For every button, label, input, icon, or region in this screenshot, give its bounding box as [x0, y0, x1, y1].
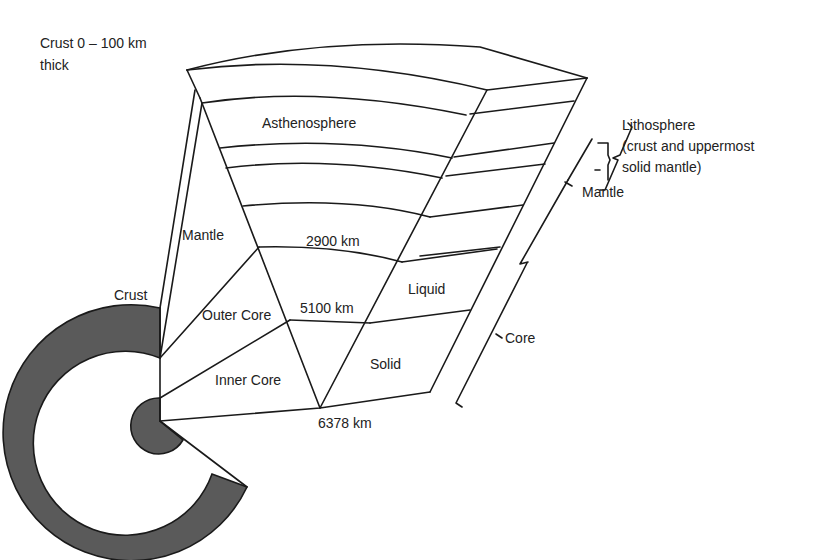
layer-line-2900 — [259, 247, 402, 262]
mantle-wedge-label: Mantle — [182, 227, 224, 243]
outer-ring-shaded — [3, 305, 247, 560]
layer-line-5100 — [290, 320, 370, 323]
right-layer-2900 — [402, 249, 497, 262]
inner-core-label: Inner Core — [215, 372, 281, 388]
bottom-edge — [160, 392, 430, 421]
depth-2900-label: 2900 km — [306, 233, 360, 249]
lithosphere-bracket — [600, 123, 632, 190]
layer-line-1 — [202, 96, 466, 115]
crust-thickness-note-line2: thick — [40, 57, 70, 73]
middle-diagonal-edge — [320, 90, 487, 408]
lithosphere-label-line2: (crust and uppermost — [622, 138, 754, 154]
depth-6378-label: 6378 km — [318, 415, 372, 431]
lithosphere-label-line3: solid mantle) — [622, 159, 701, 175]
lithosphere-label-line1: Lithosphere — [622, 117, 695, 133]
right-layer-3 — [446, 164, 545, 176]
crust-strip-outer — [160, 90, 195, 308]
earth-layers-diagram: Crust 0 – 100 km thick Asthenosphere Lit… — [0, 0, 817, 560]
cutaway-disc — [3, 305, 247, 560]
crust-thickness-note-line1: Crust 0 – 100 km — [40, 35, 147, 51]
depth-5100-label: 5100 km — [300, 300, 354, 316]
lithosphere-inner-bracket — [598, 143, 610, 180]
cutaway-edge-line — [160, 421, 247, 487]
mantle-bracket-label: Mantle — [582, 184, 624, 200]
layer-line-4 — [243, 203, 430, 217]
crust-left-edge — [187, 70, 200, 98]
right-layer-4 — [430, 205, 523, 217]
inner-core-shaded — [131, 398, 183, 454]
mantle-bracket-top — [568, 139, 592, 180]
solid-label: Solid — [370, 356, 401, 372]
labels: Crust 0 – 100 km thick Asthenosphere Lit… — [40, 35, 754, 431]
right-layer-5100 — [370, 310, 470, 323]
crust-label: Crust — [114, 287, 148, 303]
layer-line-3 — [226, 163, 442, 178]
liquid-label: Liquid — [408, 281, 445, 297]
crust-top-surface — [187, 44, 587, 78]
core-bracket-tick — [496, 334, 502, 338]
outer-core-label: Outer Core — [202, 307, 271, 323]
crust-front-top — [187, 64, 587, 90]
right-layer-2 — [454, 143, 554, 157]
asthenosphere-label: Asthenosphere — [262, 115, 356, 131]
core-bracket-label: Core — [505, 330, 536, 346]
right-layer-1 — [470, 101, 574, 114]
mantle-bracket — [520, 180, 568, 264]
layer-line-2 — [220, 143, 452, 158]
